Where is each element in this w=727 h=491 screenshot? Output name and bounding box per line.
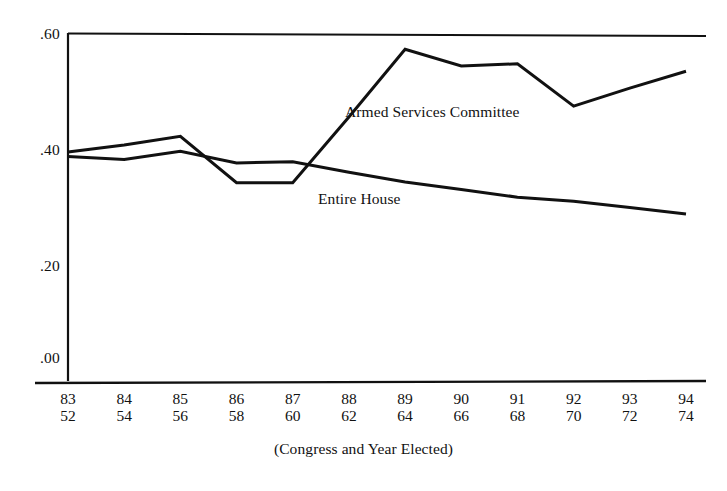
- x-tick-congress: 87: [271, 390, 315, 407]
- x-axis-tick-89: 8964: [383, 390, 427, 424]
- y-axis-tick-label: .20: [18, 258, 60, 274]
- x-tick-congress: 88: [327, 390, 371, 407]
- x-tick-year: 64: [383, 407, 427, 424]
- x-tick-year: 70: [552, 407, 596, 424]
- x-tick-congress: 85: [158, 390, 202, 407]
- x-axis-tick-91: 9168: [495, 390, 539, 424]
- x-tick-congress: 94: [664, 390, 708, 407]
- plot-top-rule: [68, 34, 706, 37]
- y-axis-tick-label: .60: [18, 26, 60, 42]
- x-tick-year: 68: [495, 407, 539, 424]
- series-label-armed-services: Armed Services Committee: [345, 103, 520, 121]
- x-tick-year: 60: [271, 407, 315, 424]
- x-axis-tick-85: 8556: [158, 390, 202, 424]
- x-tick-congress: 89: [383, 390, 427, 407]
- y-axis-tick-label: .00: [18, 350, 60, 366]
- x-axis-tick-87: 8760: [271, 390, 315, 424]
- x-tick-year: 74: [664, 407, 708, 424]
- x-tick-year: 56: [158, 407, 202, 424]
- chart-figure: .60 .40 .20 .00 835284548556865887608862…: [0, 0, 727, 491]
- series-label-entire-house: Entire House: [318, 190, 401, 208]
- x-tick-congress: 84: [102, 390, 146, 407]
- x-tick-year: 54: [102, 407, 146, 424]
- x-tick-year: 66: [439, 407, 483, 424]
- x-axis-tick-88: 8862: [327, 390, 371, 424]
- x-axis-tick-93: 9372: [608, 390, 652, 424]
- x-tick-year: 72: [608, 407, 652, 424]
- x-axis-tick-90: 9066: [439, 390, 483, 424]
- x-axis-tick-86: 8658: [215, 390, 259, 424]
- x-axis-line: [35, 381, 706, 383]
- x-axis-tick-92: 9270: [552, 390, 596, 424]
- x-tick-congress: 90: [439, 390, 483, 407]
- x-tick-congress: 86: [215, 390, 259, 407]
- x-tick-year: 62: [327, 407, 371, 424]
- x-tick-congress: 91: [495, 390, 539, 407]
- x-tick-year: 58: [215, 407, 259, 424]
- x-tick-congress: 83: [46, 390, 90, 407]
- y-axis-tick-label: .40: [18, 142, 60, 158]
- x-tick-year: 52: [46, 407, 90, 424]
- x-axis-caption: (Congress and Year Elected): [0, 440, 727, 458]
- x-tick-congress: 92: [552, 390, 596, 407]
- x-axis-tick-83: 8352: [46, 390, 90, 424]
- x-axis-tick-84: 8454: [102, 390, 146, 424]
- x-tick-congress: 93: [608, 390, 652, 407]
- x-axis-tick-94: 9474: [664, 390, 708, 424]
